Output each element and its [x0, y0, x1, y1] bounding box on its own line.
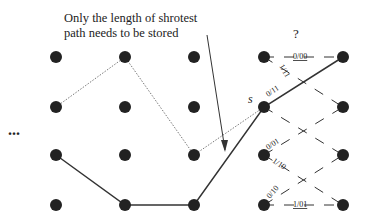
branch-label-row2-up: 0/01	[264, 136, 281, 151]
dotted-path	[56, 57, 264, 155]
start-node-label: s	[248, 92, 253, 106]
branch-label-row3-up: 0/10	[265, 184, 281, 201]
question-mark: ?	[293, 26, 299, 41]
branch-label-top: 0/00	[293, 52, 307, 61]
arrowhead-icon	[221, 140, 228, 152]
trellis-branches	[264, 57, 343, 205]
branch-label-bottom: 1/01	[293, 200, 307, 209]
ellipsis: ...	[8, 121, 20, 138]
trellis-svg: ... ? s 0/00 1/11 0/11 0/01 1/10 0/10 1/…	[0, 0, 369, 220]
branch-label-s-up: 0/11	[264, 84, 281, 99]
trellis-diagram: Only the length of shrotest path needs t…	[0, 0, 369, 220]
pointer-arrow	[207, 35, 225, 150]
branch-label-row2-down: 1/10	[271, 156, 288, 171]
branch-label-diag: 1/11	[277, 63, 292, 80]
